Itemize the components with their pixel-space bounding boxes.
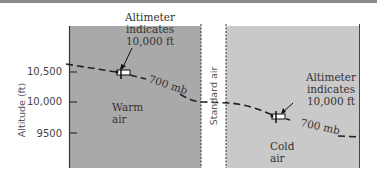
cold-altimeter-line3: 10,000 ft [307,95,356,107]
tick-label-10500: 10,500 [27,66,62,77]
cold-altimeter-line2: indicates [307,83,355,95]
altimeter-diagram: 10,500 10,000 9500 Altitude (ft) 700 mb … [0,0,377,179]
tick-label-9500: 9500 [37,128,62,139]
cold-air-label-line2: air [270,152,286,164]
standard-air-label: Standard air [208,67,219,126]
y-axis-label: Altitude (ft) [16,83,27,137]
cold-altimeter-line1: Altimeter [305,71,357,83]
warm-air-label-line2: air [112,113,128,125]
warm-air-label-line1: Warm [112,101,143,113]
warm-altimeter-line2: indicates [126,23,174,35]
cold-air-label-line1: Cold [270,140,295,152]
warm-altimeter-line3: 10,000 ft [126,35,175,47]
warm-air-panel [69,26,201,168]
tick-label-10000: 10,000 [27,96,62,107]
warm-altimeter-line1: Altimeter [124,11,176,23]
